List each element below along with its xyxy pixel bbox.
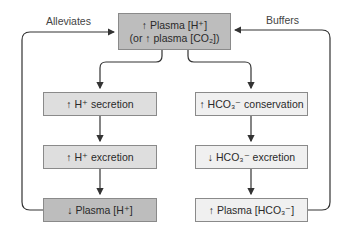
alleviates-label: Alleviates: [46, 15, 91, 27]
top-box-line2: (or ↑ plasma [CO₂]): [130, 32, 220, 45]
h-secretion-box: ↑ H⁺ secretion: [43, 92, 157, 116]
top-box-line1: ↑ Plasma [H⁺]: [142, 19, 208, 32]
h-excretion-box: ↑ H⁺ excretion: [43, 145, 157, 169]
h-excretion-label: ↑ H⁺ excretion: [66, 151, 133, 164]
hco3-excretion-label: ↓ HCO₃⁻ excretion: [208, 151, 295, 164]
plasma-h-decrease-label: ↓ Plasma [H⁺]: [67, 204, 133, 217]
plasma-h-increase-box: ↑ Plasma [H⁺] (or ↑ plasma [CO₂]): [118, 13, 231, 50]
hco3-conservation-label: ↑ HCO₃⁻ conservation: [199, 98, 303, 111]
plasma-h-decrease-box: ↓ Plasma [H⁺]: [43, 198, 157, 222]
plasma-hco3-increase-label: ↑ Plasma [HCO₃⁻]: [209, 204, 295, 217]
buffers-label: Buffers: [266, 14, 299, 26]
plasma-hco3-increase-box: ↑ Plasma [HCO₃⁻]: [195, 198, 308, 222]
h-secretion-label: ↑ H⁺ secretion: [66, 98, 133, 111]
hco3-conservation-box: ↑ HCO₃⁻ conservation: [195, 92, 308, 116]
hco3-excretion-box: ↓ HCO₃⁻ excretion: [195, 145, 308, 169]
